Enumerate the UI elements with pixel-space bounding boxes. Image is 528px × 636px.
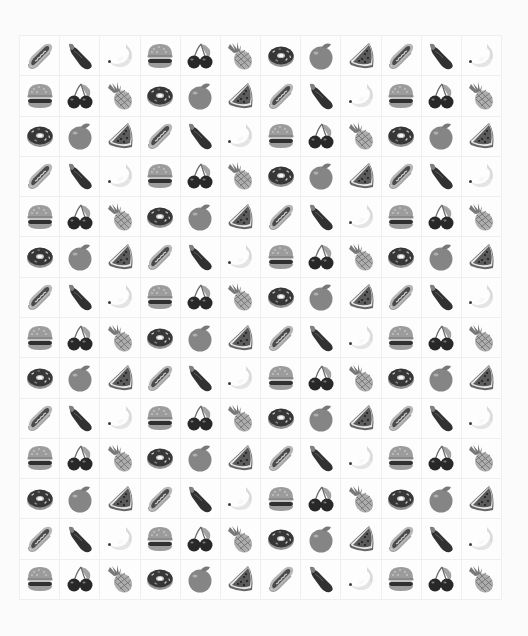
board-cell[interactable] xyxy=(181,479,221,519)
board-cell[interactable] xyxy=(261,36,301,76)
board-cell[interactable] xyxy=(100,197,140,237)
board-cell[interactable] xyxy=(20,439,60,479)
board-cell[interactable] xyxy=(382,560,422,600)
board-cell[interactable] xyxy=(60,237,100,277)
board-cell[interactable] xyxy=(60,197,100,237)
board-cell[interactable] xyxy=(181,439,221,479)
board-cell[interactable] xyxy=(261,358,301,398)
board-cell[interactable] xyxy=(301,439,341,479)
board-cell[interactable] xyxy=(221,560,261,600)
board-cell[interactable] xyxy=(382,439,422,479)
board-cell[interactable] xyxy=(301,278,341,318)
board-cell[interactable] xyxy=(221,439,261,479)
board-cell[interactable] xyxy=(422,76,462,116)
board-cell[interactable] xyxy=(261,479,301,519)
board-cell[interactable] xyxy=(181,157,221,197)
board-cell[interactable] xyxy=(100,278,140,318)
board-cell[interactable] xyxy=(301,318,341,358)
board-cell[interactable] xyxy=(301,157,341,197)
board-cell[interactable] xyxy=(100,157,140,197)
board-cell[interactable] xyxy=(181,237,221,277)
board-cell[interactable] xyxy=(382,278,422,318)
board-cell[interactable] xyxy=(382,519,422,559)
board-cell[interactable] xyxy=(20,197,60,237)
board-cell[interactable] xyxy=(60,157,100,197)
board-cell[interactable] xyxy=(100,560,140,600)
board-cell[interactable] xyxy=(20,76,60,116)
board-cell[interactable] xyxy=(301,76,341,116)
board-cell[interactable] xyxy=(462,439,502,479)
board-cell[interactable] xyxy=(20,36,60,76)
board-cell[interactable] xyxy=(382,318,422,358)
board-cell[interactable] xyxy=(301,560,341,600)
board-cell[interactable] xyxy=(20,318,60,358)
board-cell[interactable] xyxy=(341,157,381,197)
board-cell[interactable] xyxy=(382,36,422,76)
board-cell[interactable] xyxy=(301,237,341,277)
board-cell[interactable] xyxy=(181,36,221,76)
board-cell[interactable] xyxy=(462,358,502,398)
board-cell[interactable] xyxy=(141,278,181,318)
board-cell[interactable] xyxy=(341,399,381,439)
board-cell[interactable] xyxy=(60,76,100,116)
board-cell[interactable] xyxy=(141,560,181,600)
board-cell[interactable] xyxy=(382,76,422,116)
board-cell[interactable] xyxy=(221,399,261,439)
board-cell[interactable] xyxy=(382,237,422,277)
board-cell[interactable] xyxy=(181,197,221,237)
board-cell[interactable] xyxy=(181,358,221,398)
board-cell[interactable] xyxy=(100,237,140,277)
board-cell[interactable] xyxy=(422,479,462,519)
board-cell[interactable] xyxy=(382,358,422,398)
board-cell[interactable] xyxy=(100,399,140,439)
board-cell[interactable] xyxy=(181,318,221,358)
board-cell[interactable] xyxy=(100,36,140,76)
board-cell[interactable] xyxy=(60,439,100,479)
board-cell[interactable] xyxy=(382,157,422,197)
board-cell[interactable] xyxy=(422,358,462,398)
board-cell[interactable] xyxy=(301,399,341,439)
board-cell[interactable] xyxy=(462,560,502,600)
board-cell[interactable] xyxy=(20,399,60,439)
board-cell[interactable] xyxy=(100,76,140,116)
board-cell[interactable] xyxy=(60,278,100,318)
board-cell[interactable] xyxy=(60,117,100,157)
board-cell[interactable] xyxy=(422,278,462,318)
board-cell[interactable] xyxy=(141,479,181,519)
board-cell[interactable] xyxy=(181,76,221,116)
board-cell[interactable] xyxy=(462,157,502,197)
board-cell[interactable] xyxy=(100,318,140,358)
board-cell[interactable] xyxy=(221,278,261,318)
board-cell[interactable] xyxy=(60,36,100,76)
board-cell[interactable] xyxy=(462,278,502,318)
board-cell[interactable] xyxy=(422,237,462,277)
board-cell[interactable] xyxy=(221,479,261,519)
board-cell[interactable] xyxy=(20,560,60,600)
board-cell[interactable] xyxy=(181,399,221,439)
board-cell[interactable] xyxy=(261,237,301,277)
board-cell[interactable] xyxy=(341,117,381,157)
board-cell[interactable] xyxy=(100,117,140,157)
board-cell[interactable] xyxy=(20,237,60,277)
board-cell[interactable] xyxy=(462,237,502,277)
board-cell[interactable] xyxy=(181,117,221,157)
board-cell[interactable] xyxy=(261,560,301,600)
board-cell[interactable] xyxy=(462,117,502,157)
board-cell[interactable] xyxy=(341,278,381,318)
board-cell[interactable] xyxy=(382,399,422,439)
board-cell[interactable] xyxy=(261,117,301,157)
board-cell[interactable] xyxy=(422,117,462,157)
board-cell[interactable] xyxy=(301,479,341,519)
board-cell[interactable] xyxy=(422,157,462,197)
board-cell[interactable] xyxy=(462,318,502,358)
board-cell[interactable] xyxy=(141,117,181,157)
board-cell[interactable] xyxy=(60,560,100,600)
board-cell[interactable] xyxy=(382,197,422,237)
board-cell[interactable] xyxy=(261,197,301,237)
board-cell[interactable] xyxy=(341,76,381,116)
board-cell[interactable] xyxy=(141,439,181,479)
board-cell[interactable] xyxy=(60,399,100,439)
board-cell[interactable] xyxy=(141,76,181,116)
board-cell[interactable] xyxy=(341,197,381,237)
board-cell[interactable] xyxy=(301,197,341,237)
